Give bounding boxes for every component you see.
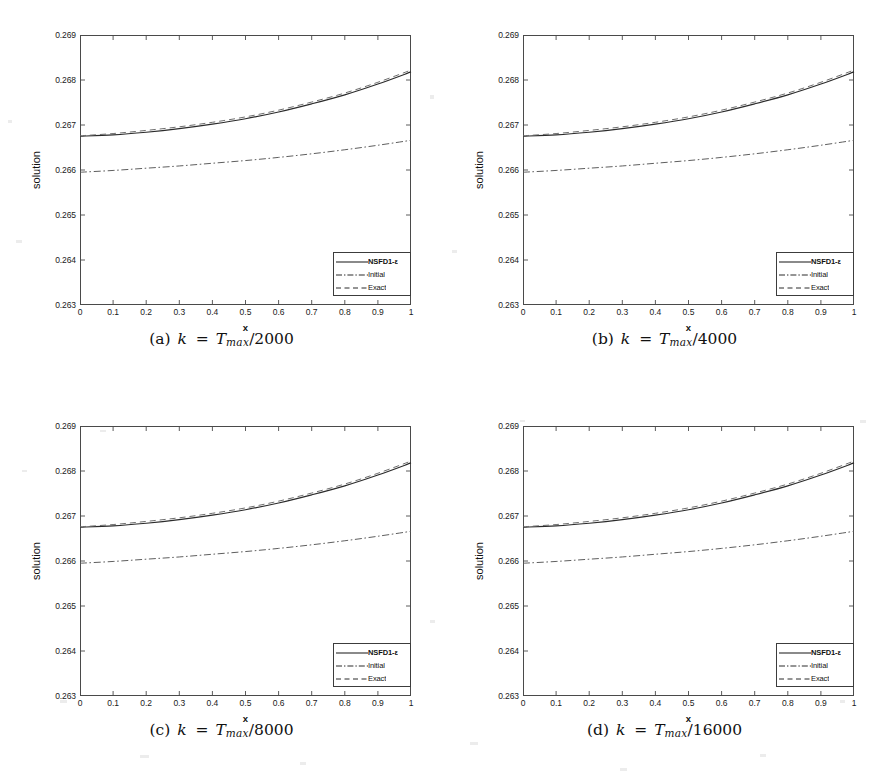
y-tick-label: 0.266 xyxy=(55,556,76,566)
x-tick-label: 0.8 xyxy=(339,698,351,708)
y-tick-label: 0.268 xyxy=(55,75,76,85)
y-tick-label: 0.265 xyxy=(55,210,76,220)
scan-artifact xyxy=(760,754,766,757)
x-tick-label: 0.6 xyxy=(273,307,285,317)
x-axis-ticks-b: 00.10.20.30.40.50.60.70.80.91 xyxy=(523,307,854,321)
x-tick-label: 0.8 xyxy=(782,307,794,317)
series-line-1 xyxy=(80,140,411,172)
caption-equals: = xyxy=(637,330,654,348)
scan-artifact xyxy=(452,250,457,253)
legend-item-1: Initial xyxy=(334,659,410,672)
series-line-0 xyxy=(80,72,411,136)
caption-label: (c) xyxy=(149,721,170,739)
legend-label-0: NSFD1-ε xyxy=(368,649,398,657)
caption-symbol: T xyxy=(659,330,669,348)
x-axis-ticks-c: 00.10.20.30.40.50.60.70.80.91 xyxy=(80,698,411,712)
x-tick-label: 0.9 xyxy=(815,698,827,708)
legend-label-1: Initial xyxy=(368,271,385,279)
y-tick-label: 0.265 xyxy=(498,601,519,611)
x-axis-ticks-a: 00.10.20.30.40.50.60.70.80.91 xyxy=(80,307,411,321)
y-tick-label: 0.264 xyxy=(55,646,76,656)
series-line-2 xyxy=(523,461,854,527)
legend-label-0: NSFD1-ε xyxy=(811,649,841,657)
x-tick-label: 0.5 xyxy=(683,307,695,317)
panel-caption-b: (b) k = Tmax/4000 xyxy=(443,330,886,348)
y-tick-label: 0.266 xyxy=(498,165,519,175)
x-tick-label: 0.7 xyxy=(749,698,761,708)
x-tick-label: 1 xyxy=(409,307,414,317)
caption-var: k xyxy=(614,721,627,739)
y-tick-label: 0.264 xyxy=(498,255,519,265)
x-tick-label: 0.4 xyxy=(206,307,218,317)
x-tick-label: 0.2 xyxy=(140,698,152,708)
caption-label: (d) xyxy=(587,721,609,739)
figure-grid: solution 0.2630.2640.2650.2660.2670.2680… xyxy=(0,0,886,782)
legend-a: NSFD1-ε Initial Exact xyxy=(333,252,411,296)
x-tick-label: 0.5 xyxy=(240,307,252,317)
x-tick-label: 1 xyxy=(852,698,857,708)
plot-area-c: NSFD1-ε Initial Exact xyxy=(80,426,411,696)
scan-artifact xyxy=(140,755,149,758)
legend-label-2: Exact xyxy=(811,284,829,292)
legend-line-dashdot-icon xyxy=(777,660,811,672)
scan-artifact xyxy=(840,700,845,703)
x-tick-label: 0.3 xyxy=(173,307,185,317)
x-tick-label: 0.1 xyxy=(550,698,562,708)
series-line-2 xyxy=(80,461,411,527)
x-tick-label: 0.1 xyxy=(550,307,562,317)
series-line-0 xyxy=(80,463,411,527)
x-tick-label: 0.9 xyxy=(815,307,827,317)
x-tick-label: 0.9 xyxy=(372,307,384,317)
panel-caption-c: (c) k = Tmax/8000 xyxy=(0,721,443,739)
legend-label-2: Exact xyxy=(368,284,386,292)
legend-label-0: NSFD1-ε xyxy=(811,258,841,266)
x-tick-label: 0.7 xyxy=(306,307,318,317)
legend-item-0: NSFD1-ε xyxy=(777,646,853,659)
series-line-0 xyxy=(523,72,854,136)
plot-area-b: NSFD1-ε Initial Exact xyxy=(523,35,854,305)
y-tick-label: 0.263 xyxy=(498,691,519,701)
legend-label-2: Exact xyxy=(811,675,829,683)
legend-c: NSFD1-ε Initial Exact xyxy=(333,643,411,687)
caption-var: k xyxy=(175,330,188,348)
legend-label-2: Exact xyxy=(368,675,386,683)
series-line-1 xyxy=(80,531,411,563)
y-axis-ticks-b: 0.2630.2640.2650.2660.2670.2680.269 xyxy=(443,35,519,305)
caption-denominator: 16000 xyxy=(693,721,742,739)
x-tick-label: 0.4 xyxy=(649,307,661,317)
y-tick-label: 0.267 xyxy=(498,511,519,521)
legend-item-2: Exact xyxy=(334,281,410,294)
caption-symbol: T xyxy=(215,721,225,739)
caption-symbol: T xyxy=(654,721,664,739)
scan-artifact xyxy=(22,470,27,472)
legend-line-dashdot-icon xyxy=(334,269,368,281)
x-tick-label: 0 xyxy=(78,698,83,708)
x-tick-label: 0.6 xyxy=(273,698,285,708)
y-tick-label: 0.268 xyxy=(498,75,519,85)
y-axis-ticks-d: 0.2630.2640.2650.2660.2670.2680.269 xyxy=(443,426,519,696)
legend-label-1: Initial xyxy=(811,271,828,279)
y-tick-label: 0.269 xyxy=(498,421,519,431)
legend-line-dashed-icon xyxy=(777,673,811,685)
x-tick-label: 1 xyxy=(852,307,857,317)
x-axis-ticks-d: 00.10.20.30.40.50.60.70.80.91 xyxy=(523,698,854,712)
scan-artifact xyxy=(620,768,627,771)
y-axis-ticks-c: 0.2630.2640.2650.2660.2670.2680.269 xyxy=(0,426,76,696)
legend-line-solid-icon xyxy=(777,647,811,659)
y-tick-label: 0.263 xyxy=(498,300,519,310)
scan-artifact xyxy=(430,620,435,623)
x-tick-label: 0.2 xyxy=(140,307,152,317)
scan-artifact xyxy=(60,700,67,703)
series-line-0 xyxy=(523,463,854,527)
y-tick-label: 0.267 xyxy=(55,511,76,521)
legend-item-0: NSFD1-ε xyxy=(334,646,410,659)
scan-artifact xyxy=(300,762,306,765)
legend-item-1: Initial xyxy=(777,659,853,672)
y-tick-label: 0.268 xyxy=(55,466,76,476)
x-tick-label: 0.4 xyxy=(649,698,661,708)
y-tick-label: 0.269 xyxy=(498,30,519,40)
caption-label: (b) xyxy=(592,330,614,348)
x-tick-label: 0 xyxy=(521,698,526,708)
series-line-2 xyxy=(80,70,411,136)
x-tick-label: 0.6 xyxy=(716,307,728,317)
